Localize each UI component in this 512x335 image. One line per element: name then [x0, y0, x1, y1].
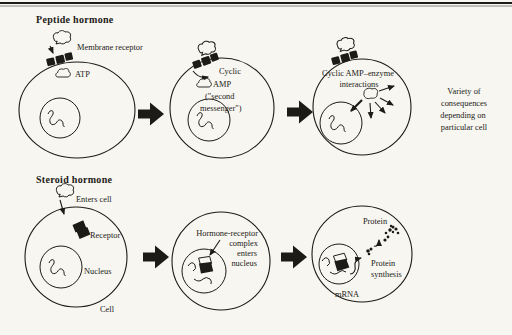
hormone-receptor-complex-icon: [194, 253, 217, 277]
cell-label: Cell: [100, 305, 115, 314]
protein-synthesis-label-line1: Protein: [371, 259, 396, 268]
dna-squiggle-icon: [330, 271, 346, 275]
signal-curved-arrow: [193, 71, 208, 77]
nucleus: [40, 246, 82, 288]
outcome-line2: consequences: [441, 99, 487, 108]
peptide-cell-1: Membrane receptor ATP: [19, 31, 143, 158]
step-arrow-icon: [138, 103, 164, 126]
peptide-cell-2: Cyclic AMP ("second messenger"): [170, 40, 274, 158]
step-arrow-icon: [143, 246, 169, 269]
intracellular-receptor-icon: [71, 219, 92, 240]
complex-label-line1: Hormone-receptor: [196, 229, 258, 238]
diagram-canvas: Peptide hormone Membrane receptor ATP Cy…: [0, 0, 512, 335]
steroid-hormone-icon: [56, 184, 73, 197]
step-arrow-icon: [281, 246, 307, 269]
membrane-receptor-label: Membrane receptor: [77, 43, 143, 52]
nucleus: [320, 102, 362, 144]
cell-membrane: [25, 207, 127, 307]
membrane-receptor-icon: [331, 50, 359, 65]
complex-label-line3: enters: [237, 249, 257, 258]
dna-squiggle-icon: [322, 258, 330, 266]
peptide-title: Peptide hormone: [36, 14, 114, 25]
dna-squiggle-icon: [194, 278, 211, 285]
textbook-figure-hormone-mechanisms: Peptide hormone Membrane receptor ATP Cy…: [0, 0, 512, 335]
enters-cell-label: Enters cell: [76, 195, 112, 204]
cyclic-amp-label-line3: ("second: [205, 92, 235, 101]
cyclic-amp-label-line2: AMP: [213, 80, 231, 89]
enzyme-label-line2: interactions: [339, 80, 378, 89]
cyclic-amp-icon: [197, 79, 212, 87]
complex-label-line2: complex: [229, 239, 259, 248]
mrna-label: mRNA: [335, 290, 359, 299]
dna-squiggle-icon: [48, 111, 65, 127]
enters-cell-arrow: [60, 200, 64, 214]
dna-squiggle-icon: [49, 260, 66, 276]
synthesis-squiggle-arrow: [374, 240, 379, 246]
protein-label: Protein: [363, 217, 388, 226]
atp-icon: [56, 69, 71, 77]
peptide-cell-3: Cyclic AMP–enzyme interactions: [313, 37, 411, 155]
cyclic-amp-label-line4: messenger"): [200, 104, 242, 113]
steroid-cell-1: Enters cell Receptor Nucleus Cell: [25, 184, 127, 314]
ribosome-icon: [366, 248, 372, 256]
outcome-line1: Variety of: [447, 87, 480, 96]
peptide-hormone-icon: [53, 31, 70, 44]
outcome-line3: depending on: [440, 111, 486, 120]
peptide-outcome-text: Variety of consequences depending on par…: [440, 87, 487, 132]
steroid-cell-3: Protein Protein synthesis mRNA: [312, 206, 412, 302]
membrane-receptor-icon: [192, 52, 220, 69]
steroid-cell-2: Hormone-receptor complex enters nucleus: [172, 212, 270, 310]
hormone-binding-arrow: [50, 46, 53, 53]
outcome-line4: particular cell: [441, 123, 488, 132]
dna-squiggle-icon: [188, 263, 196, 271]
nucleus: [40, 98, 80, 138]
step-arrow-icon: [287, 101, 313, 124]
complex-label-line4: nucleus: [231, 259, 257, 268]
protein-synthesis-label-line2: synthesis: [371, 270, 402, 279]
nucleus-label: Nucleus: [84, 267, 111, 276]
cyclic-amp-label-line1: Cyclic: [219, 67, 241, 76]
dna-squiggle-icon: [197, 113, 214, 129]
enters-nucleus-arrow: [210, 240, 220, 255]
bound-hormone-icon: [336, 37, 355, 52]
dna-squiggle-icon: [329, 116, 346, 132]
page-top-rule: [0, 2, 512, 6]
enzyme-label-line1: Cyclic AMP–enzyme: [322, 69, 394, 78]
cyclic-amp-icon: [364, 88, 378, 98]
receptor-label: Receptor: [90, 231, 120, 240]
atp-label: ATP: [75, 70, 90, 79]
steroid-title: Steroid hormone: [36, 174, 113, 185]
protein-molecule-icon: [383, 225, 399, 242]
bound-hormone-icon: [197, 40, 216, 56]
